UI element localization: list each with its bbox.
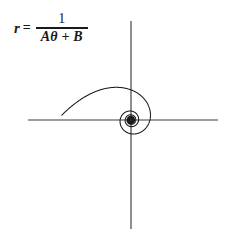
equation-label: r = 1 Aθ + B bbox=[14, 12, 88, 44]
axes-group bbox=[28, 21, 218, 229]
equation-variable: r bbox=[14, 21, 20, 36]
equation-relation: = bbox=[23, 21, 31, 35]
spiral-curve-group bbox=[62, 87, 151, 134]
hyperbolic-spiral-figure: r = 1 Aθ + B bbox=[0, 0, 241, 236]
equation-numerator: 1 bbox=[52, 12, 71, 27]
equation-fraction: 1 Aθ + B bbox=[36, 12, 88, 44]
hyperbolic-spiral-curve bbox=[62, 87, 151, 134]
equation-denominator: Aθ + B bbox=[38, 29, 86, 44]
